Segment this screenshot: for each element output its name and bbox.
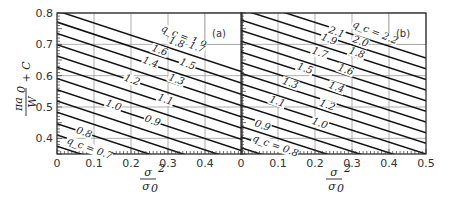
x-tick-label: 0.5 [417, 157, 435, 170]
x-axis-label-a: σ 2 σ 0 [140, 162, 165, 195]
curve-line [57, 45, 242, 106]
x-tick-label: 0 [54, 157, 61, 170]
y-tick-label: 0.7 [36, 38, 54, 51]
x-tick-label: 0.4 [380, 157, 398, 170]
x-tick-label: 0.2 [306, 157, 324, 170]
panel-b-tag: (b) [396, 28, 410, 39]
x-tick-label: 0.4 [196, 157, 214, 170]
svg-text:σ: σ [328, 180, 336, 193]
x-axis-label-b: σ 2 σ 0 [326, 162, 351, 195]
chart-figure: 00.10.20.30.400.10.20.30.40.50.40.50.60.… [0, 0, 451, 200]
panel-a-tag: (a) [212, 28, 226, 39]
svg-text:σ: σ [142, 180, 150, 193]
y-tick-label: 0.6 [36, 70, 54, 83]
x-tick-label: 0.1 [85, 157, 103, 170]
svg-text:2: 2 [157, 162, 165, 175]
x-tick-label: 0.1 [269, 157, 287, 170]
svg-text:0: 0 [337, 182, 344, 195]
svg-text:+ C: + C [20, 61, 33, 83]
svg-text:W: W [26, 95, 39, 108]
curve-label: q_c = 0.8 [251, 132, 300, 160]
svg-text:σ: σ [330, 166, 338, 179]
x-tick-label: 0.2 [122, 157, 140, 170]
svg-text:πa: πa [12, 97, 25, 112]
x-tick-label: 0 [238, 157, 245, 170]
y-tick-label: 0.8 [36, 7, 54, 20]
svg-text:0: 0 [151, 182, 158, 195]
y-tick-label: 0.4 [36, 132, 54, 145]
svg-text:σ: σ [144, 166, 152, 179]
svg-text:2: 2 [343, 162, 351, 175]
